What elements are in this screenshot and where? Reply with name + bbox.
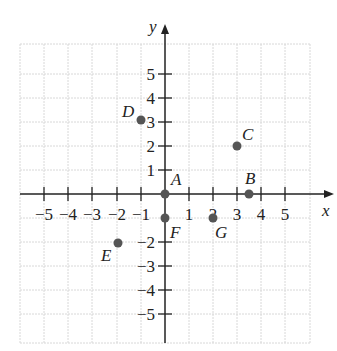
y-tick-label: 4 — [147, 89, 156, 108]
point-label-e: E — [100, 246, 112, 265]
y-axis-label: y — [147, 17, 157, 36]
point-label-d: D — [121, 102, 135, 121]
x-tick-label: 4 — [257, 205, 266, 224]
point-c — [233, 142, 242, 151]
x-tick-label: −2 — [108, 205, 126, 224]
x-tick-label: 1 — [185, 205, 194, 224]
point-label-f: F — [169, 223, 181, 242]
point-labels: A B C D E F G — [100, 102, 256, 265]
x-axis-arrow-icon — [324, 190, 334, 198]
point-d — [137, 116, 146, 125]
x-axis — [20, 190, 334, 198]
y-tick-label: 5 — [147, 65, 156, 84]
y-tick-label: 2 — [147, 137, 156, 156]
point-g — [209, 214, 218, 223]
point-a — [161, 190, 170, 199]
x-tick-label: −5 — [35, 205, 53, 224]
y-tick-label: 1 — [147, 161, 156, 180]
y-axis — [161, 24, 169, 343]
point-label-c: C — [242, 125, 254, 144]
y-tick-label: 3 — [147, 113, 156, 132]
point-b — [245, 190, 254, 199]
x-tick-label: −1 — [132, 205, 150, 224]
y-tick-label: −2 — [137, 233, 155, 252]
point-label-a: A — [170, 170, 182, 189]
y-tick-label: −4 — [137, 281, 156, 300]
y-tick-label: −5 — [137, 305, 155, 324]
x-tick-label: −4 — [59, 205, 78, 224]
y-tick-label: −3 — [137, 257, 155, 276]
x-axis-label: x — [321, 201, 330, 220]
point-e — [114, 239, 123, 248]
x-tick-label: 3 — [233, 205, 242, 224]
point-label-b: B — [245, 169, 256, 188]
point-label-g: G — [215, 223, 227, 242]
x-tick-label: 5 — [281, 205, 290, 224]
point-f — [161, 214, 170, 223]
y-axis-arrow-icon — [161, 24, 169, 34]
data-points — [114, 116, 254, 248]
coordinate-plane-chart: −5 −4 −3 −2 −1 1 2 3 4 5 5 4 3 2 1 −2 −3… — [0, 0, 337, 351]
x-tick-label: −3 — [83, 205, 101, 224]
